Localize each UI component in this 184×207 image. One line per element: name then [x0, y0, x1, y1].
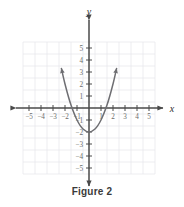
- figure-panel: −5 −4 −3 −2 −1 1 2 3 4 5 5 4 3 2 1 −1 −2…: [0, 0, 184, 207]
- x-tick-label: −2: [61, 113, 69, 121]
- figure-caption: Figure 2: [0, 186, 184, 197]
- y-tick-label: 2: [79, 81, 83, 89]
- y-tick-label: 4: [79, 57, 83, 65]
- x-tick-label: 4: [135, 113, 139, 121]
- y-tick-label: 3: [79, 69, 83, 77]
- y-tick-label: −5: [75, 165, 83, 173]
- x-tick-label: 5: [147, 113, 151, 121]
- x-tick-label: 3: [123, 113, 127, 121]
- x-tick-label: −5: [25, 113, 33, 121]
- y-tick-label: 5: [79, 45, 83, 53]
- y-tick-label: −4: [75, 153, 83, 161]
- x-axis-label: x: [169, 103, 175, 114]
- y-axis-label: y: [86, 6, 92, 17]
- coordinate-plane-graph: −5 −4 −3 −2 −1 1 2 3 4 5 5 4 3 2 1 −1 −2…: [0, 0, 184, 207]
- y-tick-label: −2: [75, 129, 83, 137]
- y-tick-label: −3: [75, 141, 83, 149]
- x-tick-label: −3: [49, 113, 57, 121]
- graph-background: [0, 0, 184, 207]
- x-tick-label: 2: [111, 113, 115, 121]
- x-tick-label: −4: [37, 113, 45, 121]
- y-tick-label: 1: [79, 93, 83, 101]
